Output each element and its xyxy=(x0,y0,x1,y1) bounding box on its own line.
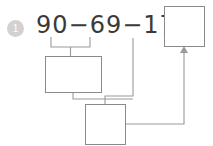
answer-box[interactable] xyxy=(164,6,205,47)
work-box-2-value xyxy=(86,105,125,144)
answer-box-value xyxy=(165,7,204,46)
problem-number-badge: 1 xyxy=(7,20,24,37)
work-box-1[interactable] xyxy=(45,56,102,93)
math-worksheet-problem: 1 90−69−17= xyxy=(0,0,213,146)
work-box-2[interactable] xyxy=(85,104,126,145)
connector-box2-to-answer xyxy=(126,52,184,124)
connector-from-17 xyxy=(105,38,133,104)
arrowhead-into-answer-box xyxy=(180,46,188,53)
work-box-1-value xyxy=(46,57,101,92)
bracket-under-90-minus-69 xyxy=(51,37,90,56)
